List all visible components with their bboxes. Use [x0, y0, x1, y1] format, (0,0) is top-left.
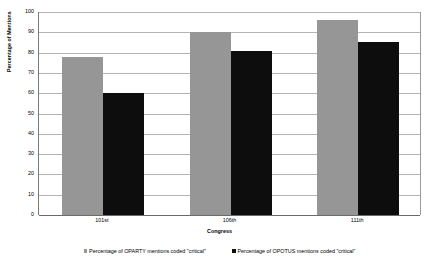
y-tick-label: 90 — [28, 30, 34, 35]
legend-item[interactable]: Percentage of OPARTY mentions coded "cri… — [84, 248, 206, 254]
chart-legend: Percentage of OPARTY mentions coded "cri… — [0, 248, 439, 254]
bar-chart: Percentage of Mentions 01020304050607080… — [0, 0, 439, 264]
y-axis-title: Percentage of Mentions — [6, 62, 12, 72]
plot-area — [38, 12, 421, 215]
x-tick-label: 106th — [223, 217, 237, 223]
bar-group — [62, 12, 144, 215]
y-tick-label: 40 — [28, 131, 34, 136]
legend-label: Percentage of OPOTUS mentions coded "cri… — [238, 248, 356, 254]
bar-group — [317, 12, 399, 215]
y-tick-label: 80 — [28, 50, 34, 55]
bar — [231, 51, 272, 215]
y-tick-label: 20 — [28, 172, 34, 177]
plot-wrapper: Percentage of Mentions 01020304050607080… — [0, 0, 439, 238]
bars-layer — [39, 12, 420, 215]
y-axis-tick-labels: 0102030405060708090100 — [18, 12, 36, 215]
bar-group — [190, 12, 272, 215]
y-tick-label: 60 — [28, 90, 34, 95]
legend-item[interactable]: Percentage of OPOTUS mentions coded "cri… — [232, 248, 356, 254]
bar — [62, 57, 103, 215]
y-tick-label: 70 — [28, 70, 34, 75]
x-tick-label: 101st — [95, 217, 108, 223]
x-axis-tick-labels: 101st106th111th — [38, 217, 421, 227]
bar — [317, 20, 358, 215]
legend-swatch-icon — [232, 249, 236, 253]
bar — [190, 32, 231, 215]
x-tick-label: 111th — [351, 217, 364, 223]
legend-swatch-icon — [84, 249, 88, 253]
y-tick-label: 30 — [28, 151, 34, 156]
x-axis-title: Congress — [0, 228, 439, 234]
bar — [358, 42, 399, 215]
bar — [103, 93, 144, 215]
y-tick-label: 100 — [25, 9, 34, 14]
gridline-0 — [39, 215, 420, 216]
y-tick-label: 50 — [28, 111, 34, 116]
y-tick-label: 10 — [28, 192, 34, 197]
y-tick-label: 0 — [31, 212, 34, 217]
legend-label: Percentage of OPARTY mentions coded "cri… — [89, 248, 206, 254]
